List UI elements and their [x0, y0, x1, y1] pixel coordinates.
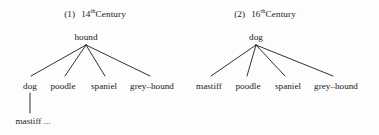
panel-2-period-unit: Century: [266, 9, 296, 19]
edge-hound-greyhound: [86, 45, 150, 76]
edge-dog-poodle: [247, 45, 256, 76]
panel-1-leaf-spaniel: spaniel: [91, 82, 117, 91]
panel-2-period-value: 16: [251, 9, 260, 19]
panel-1-number: (1): [64, 9, 75, 19]
edge-hound-poodle: [65, 45, 86, 76]
panel-2-leaf-poodle: poodle: [235, 82, 260, 91]
tree-edges: [0, 0, 379, 135]
panel-2-caption: (2)16thCentury: [234, 10, 296, 19]
edge-dog-mastiff2: [211, 45, 256, 76]
panel-1-leaf-poodle: poodle: [50, 82, 75, 91]
panel-1-period-unit: Century: [96, 9, 126, 19]
panel-2-number: (2): [234, 9, 245, 19]
edge-dog-greyhound: [256, 45, 333, 76]
panel-1-caption: (1)14thCentury: [64, 10, 126, 19]
panel-2-leaf-greyhound: grey–hound: [314, 82, 358, 91]
panel-1-period-value: 14: [81, 9, 90, 19]
panel-2-root-node: dog: [249, 33, 263, 42]
panel-2-leaf-mastiff: mastiff: [196, 82, 222, 91]
panel-1-subleaf-mastiff: mastiff ...: [15, 117, 50, 126]
panel-1-root-node: hound: [75, 33, 98, 42]
edge-hound-dog: [31, 45, 86, 76]
edge-hound-spaniel: [86, 45, 105, 76]
figure-canvas: (1)14thCentury hound dog poodle spaniel …: [0, 0, 379, 135]
edge-dog-spaniel: [256, 45, 285, 76]
panel-2-leaf-spaniel: spaniel: [275, 82, 301, 91]
panel-1-leaf-greyhound: grey–hound: [130, 82, 174, 91]
panel-1-leaf-dog: dog: [23, 82, 37, 91]
